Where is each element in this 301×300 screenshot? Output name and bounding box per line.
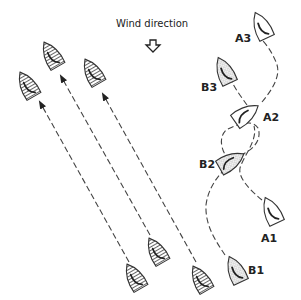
white-boat-a3 (248, 9, 275, 41)
label-a3: A3 (235, 32, 251, 45)
track-a (262, 40, 278, 102)
tacking-pair-right: A3 B3 A2 B2 A1 B1 (199, 9, 285, 285)
track-b (206, 172, 225, 255)
label-a2: A2 (263, 111, 279, 124)
diagram-canvas: Wind direction (0, 0, 301, 300)
down-arrow-icon (146, 40, 160, 52)
wind-direction-label: Wind direction (116, 18, 188, 29)
track-line (62, 78, 150, 235)
label-b1: B1 (248, 264, 264, 277)
track-b (232, 82, 247, 105)
hatched-boat (186, 262, 214, 294)
track-line (41, 104, 129, 262)
hatched-boat (120, 260, 148, 292)
hatched-boat (142, 234, 170, 266)
white-boat-a1 (258, 194, 285, 226)
dotted-boat-b1 (222, 253, 249, 285)
label-a1: A1 (261, 232, 277, 245)
white-boat-a2 (230, 99, 262, 129)
hatched-boat (13, 68, 41, 100)
label-b2: B2 (199, 158, 215, 171)
hatched-boat (78, 55, 106, 87)
tack-fleet-left (13, 38, 214, 294)
label-b3: B3 (201, 81, 217, 94)
track-line (104, 96, 196, 262)
sailing-diagram: Wind direction (0, 0, 301, 300)
hatched-boat (37, 38, 65, 70)
